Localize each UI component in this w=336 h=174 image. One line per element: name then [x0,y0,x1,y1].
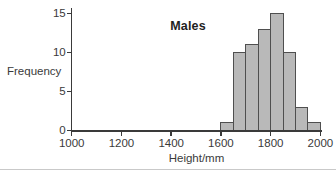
x-axis-tick [320,132,321,137]
y-tick-label: 15 [44,7,66,20]
y-tick-label: 10 [44,46,66,59]
x-tick-label: 1600 [204,137,238,150]
y-axis-tick [67,13,72,14]
page-divider-line [0,169,336,170]
histogram-bar [295,107,308,132]
histogram-bar [283,52,296,131]
y-axis-title: Frequency [7,65,62,77]
x-tick-label: 2000 [303,137,336,150]
y-tick-label: 0 [44,124,66,137]
x-tick-label: 1400 [154,137,188,150]
y-tick-label: 5 [44,85,66,98]
x-axis-tick [170,132,171,137]
y-axis-tick [67,91,72,92]
chart-title: Males [158,19,218,33]
x-axis-tick [270,132,271,137]
x-tick-label: 1800 [254,137,288,150]
histogram-bar [258,29,271,132]
y-axis-line [71,8,72,132]
histogram-bar [270,13,283,131]
y-axis-tick [67,52,72,53]
x-axis-title: Height/mm [72,152,321,164]
x-axis-tick [121,132,122,137]
histogram-figure: 051015100012001400160018002000 Males Fre… [0,0,336,174]
x-axis-tick [71,132,72,137]
x-axis-tick [220,132,221,137]
histogram-bar [245,44,258,131]
histogram-bar [233,52,246,131]
x-axis-line [71,130,322,131]
x-tick-label: 1000 [55,137,89,150]
x-tick-label: 1200 [104,137,138,150]
